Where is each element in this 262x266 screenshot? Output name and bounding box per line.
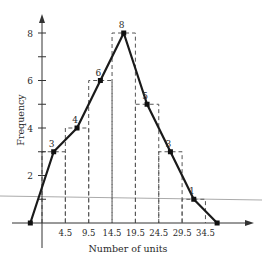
x-axis-arrow-icon bbox=[245, 220, 254, 226]
x-tick-label: 24.5 bbox=[149, 228, 168, 238]
histogram-bar bbox=[89, 81, 112, 224]
histogram-bar bbox=[65, 128, 88, 223]
data-point-label: 8 bbox=[119, 20, 125, 30]
y-tick-label: 6 bbox=[27, 76, 33, 86]
x-tick-label: 29.5 bbox=[173, 228, 192, 238]
data-point bbox=[121, 31, 126, 36]
x-tick-label: 34.5 bbox=[196, 228, 215, 238]
histogram-bar bbox=[112, 33, 135, 223]
y-tick-label: 4 bbox=[27, 124, 33, 134]
x-tick-label: 4.5 bbox=[59, 228, 73, 238]
y-axis bbox=[39, 14, 45, 248]
histogram-dashed-bars bbox=[42, 33, 205, 223]
y-tick-label: 2 bbox=[27, 171, 33, 181]
data-point-label: 4 bbox=[72, 115, 78, 125]
data-point-label: 3 bbox=[49, 139, 55, 149]
data-point-label: 3 bbox=[166, 139, 172, 149]
data-point bbox=[75, 126, 80, 131]
x-tick-label: 19.5 bbox=[126, 228, 145, 238]
histogram-bar bbox=[182, 199, 205, 223]
data-point bbox=[51, 149, 56, 154]
data-point bbox=[98, 78, 103, 83]
data-point-label: 5 bbox=[142, 91, 148, 101]
x-ticks: 4.59.514.519.524.529.534.5 bbox=[59, 228, 215, 238]
data-points: 3468531 bbox=[28, 20, 220, 226]
histogram-bar bbox=[42, 152, 65, 223]
y-axis-arrow-icon bbox=[39, 14, 45, 23]
data-point bbox=[215, 221, 220, 226]
y-axis-title: Frequency bbox=[15, 94, 26, 146]
histogram-bar bbox=[159, 152, 182, 223]
y-tick-label: 8 bbox=[27, 29, 33, 39]
data-point bbox=[168, 149, 173, 154]
x-axis-title: Number of units bbox=[89, 243, 168, 254]
x-tick-label: 9.5 bbox=[82, 228, 96, 238]
data-point bbox=[145, 102, 150, 107]
x-tick-label: 14.5 bbox=[103, 228, 122, 238]
data-point-label: 1 bbox=[189, 186, 195, 196]
data-point bbox=[28, 221, 33, 226]
data-point bbox=[191, 197, 196, 202]
frequency-polygon-chart: 2468 4.59.514.519.524.529.534.5 3468531 … bbox=[0, 0, 262, 266]
data-point-label: 6 bbox=[96, 68, 102, 78]
y-ticks: 2468 bbox=[27, 29, 46, 200]
